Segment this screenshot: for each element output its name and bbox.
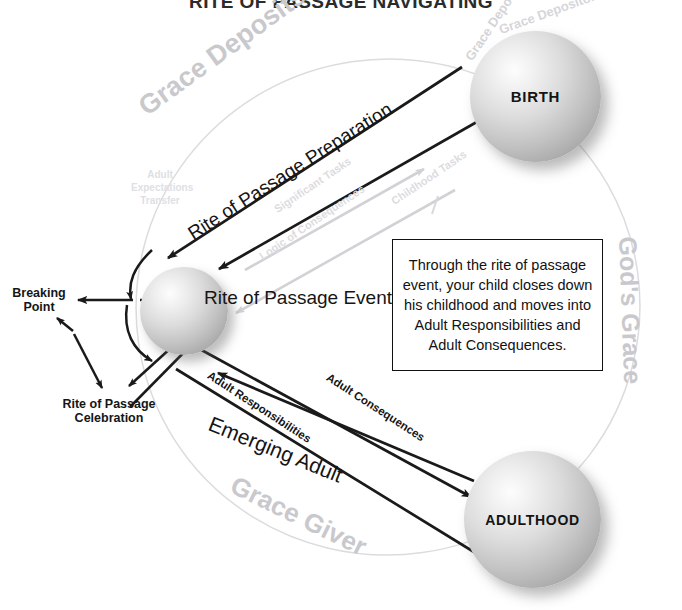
callout-line: Through the rite of passage xyxy=(409,255,586,275)
node-birth-label: BIRTH xyxy=(511,88,560,105)
node-rite-of-passage-event-label: Rite of Passage Event xyxy=(204,287,392,308)
callout-line: event, your child closes down xyxy=(403,275,592,295)
arrow-to-breaking-point-up xyxy=(57,318,73,331)
callout-line: his childhood and moves into xyxy=(404,295,591,315)
ghost-label-adult-expectations: Adult Expectations Transfer xyxy=(131,168,189,207)
callout-box: Through the rite of passage event, your … xyxy=(392,239,603,371)
node-rite-of-passage-event[interactable] xyxy=(140,267,228,355)
arrow-to-rop-celebration-down xyxy=(74,334,102,388)
label-breaking-point: Breaking Point xyxy=(8,286,70,314)
callout-line: Adult Responsibilities and xyxy=(414,315,580,335)
label-rite-of-passage-celebration: Rite of Passage Celebration xyxy=(56,397,162,425)
callout-line: Adult Consequences. xyxy=(429,335,567,355)
diagram-canvas: RITE OF PASSAGE NAVIGATING xyxy=(0,0,682,610)
node-adulthood-label: ADULTHOOD xyxy=(485,512,580,528)
node-birth[interactable]: BIRTH xyxy=(470,31,601,162)
watermark-gods-grace: God's Grace xyxy=(613,236,647,385)
node-adulthood[interactable]: ADULTHOOD xyxy=(464,451,601,588)
